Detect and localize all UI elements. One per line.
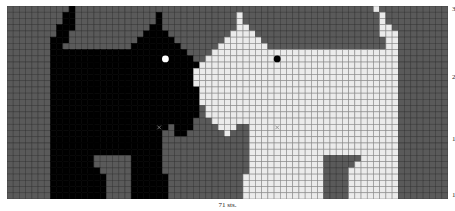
black-dog-stitch [88,180,94,186]
background-stitch [119,180,125,186]
black-dog-stitch [88,187,94,193]
white-dog-stitch [262,137,268,143]
background-stitch [342,18,348,24]
background-stitch [162,162,168,168]
white-dog-stitch [231,50,237,56]
white-dog-stitch [255,74,261,80]
white-dog-stitch [367,93,373,99]
black-dog-stitch [82,124,88,130]
black-dog-stitch [175,68,181,74]
background-stitch [206,31,212,37]
black-dog-stitch [162,112,168,118]
white-dog-stitch [324,118,330,124]
white-dog-stitch [299,149,305,155]
background-stitch [106,12,112,18]
background-stitch [113,193,119,199]
background-stitch [212,174,218,180]
background-stitch [417,124,423,130]
background-stitch [442,180,448,186]
background-stitch [349,6,355,12]
black-dog-stitch [88,99,94,105]
white-dog-stitch [206,81,212,87]
background-stitch [237,6,243,12]
background-stitch [231,131,237,137]
background-stitch [336,31,342,37]
white-dog-stitch [287,50,293,56]
black-dog-stitch [88,112,94,118]
black-dog-stitch [144,137,150,143]
white-dog-stitch [318,87,324,93]
black-dog-stitch [156,174,162,180]
background-stitch [200,37,206,43]
black-dog-stitch [131,50,137,56]
white-dog-stitch [392,62,398,68]
background-stitch [212,187,218,193]
black-dog-stitch [82,143,88,149]
black-dog-stitch [150,93,156,99]
background-stitch [405,99,411,105]
background-stitch [398,68,404,74]
background-stitch [206,180,212,186]
white-dog-stitch [392,112,398,118]
background-stitch [212,193,218,199]
background-stitch [13,31,19,37]
background-stitch [144,12,150,18]
background-stitch [373,12,379,18]
black-dog-stitch [57,168,63,174]
background-stitch [398,99,404,105]
black-dog-stitch [175,93,181,99]
white-dog-stitch [386,62,392,68]
white-dog-stitch [386,99,392,105]
white-dog-stitch [355,74,361,80]
white-dog-stitch [367,118,373,124]
background-stitch [429,87,435,93]
white-dog-stitch [318,155,324,161]
black-dog-stitch [82,187,88,193]
background-stitch [187,143,193,149]
black-dog-stitch [100,93,106,99]
black-dog-stitch [131,62,137,68]
black-dog-stitch [69,124,75,130]
background-stitch [32,131,38,137]
black-dog-stitch [106,50,112,56]
background-stitch [7,43,13,49]
white-dog-stitch [361,112,367,118]
background-stitch [100,6,106,12]
background-stitch [411,50,417,56]
white-dog-stitch [386,31,392,37]
white-dog-stitch [231,87,237,93]
white-dog-stitch [200,99,206,105]
background-stitch [200,174,206,180]
black-dog-stitch [57,93,63,99]
white-dog-stitch [237,50,243,56]
background-stitch [330,174,336,180]
black-dog-stitch [88,74,94,80]
white-dog-stitch [330,112,336,118]
background-stitch [417,74,423,80]
black-dog-stitch [82,149,88,155]
black-dog-stitch [63,106,69,112]
background-stitch [436,187,442,193]
background-stitch [349,18,355,24]
background-stitch [88,25,94,31]
white-dog-stitch [243,106,249,112]
background-stitch [125,193,131,199]
background-stitch [94,12,100,18]
background-stitch [268,31,274,37]
white-dog-stitch [373,131,379,137]
white-dog-stitch [268,137,274,143]
background-stitch [7,68,13,74]
background-stitch [218,12,224,18]
background-stitch [19,56,25,62]
background-stitch [187,12,193,18]
black-dog-stitch [88,56,94,62]
background-stitch [187,6,193,12]
background-stitch [162,137,168,143]
black-dog-stitch [156,31,162,37]
background-stitch [125,6,131,12]
background-stitch [349,43,355,49]
background-stitch [7,180,13,186]
background-stitch [26,43,32,49]
background-stitch [19,12,25,18]
black-dog-stitch [137,118,143,124]
